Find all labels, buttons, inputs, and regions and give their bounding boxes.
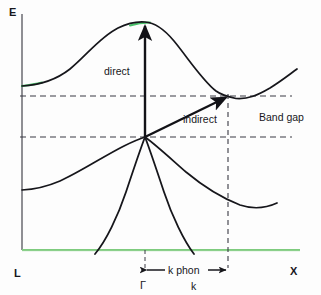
band-structure-figure: E L X direct indirect Band gap k phon k … [0, 0, 321, 295]
valence-band-light-right [145, 137, 194, 254]
band-structure-plot [0, 0, 321, 295]
conduction-band-curve [22, 22, 297, 99]
gamma-point-label: Γ [140, 280, 146, 291]
k-phonon-label: k phon [168, 265, 200, 276]
x-axis-left-label: L [14, 268, 21, 279]
k-label: k [191, 281, 196, 292]
band-gap-label: Band gap [259, 112, 304, 123]
valence-band-light-left [95, 137, 145, 254]
indirect-transition-label: indirect [183, 114, 217, 125]
valence-band-heavy-left [22, 137, 145, 190]
y-axis-label: E [9, 7, 16, 18]
valence-band-heavy-right [145, 137, 277, 208]
direct-transition-label: direct [104, 66, 130, 77]
x-axis-right-label: X [290, 266, 297, 277]
